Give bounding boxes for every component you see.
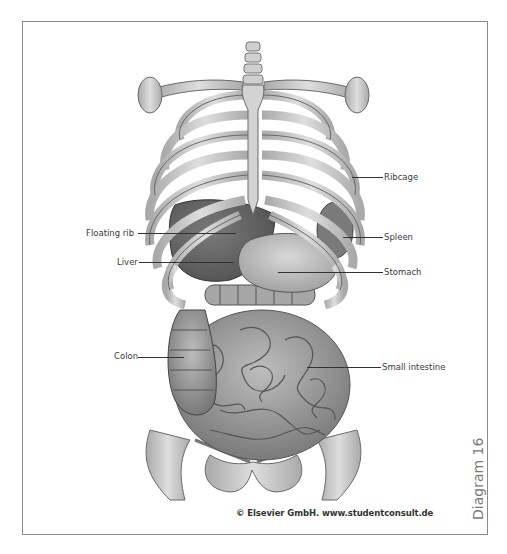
label-liver: Liver [117, 257, 138, 267]
label-colon: Colon [114, 351, 138, 361]
leader-colon [138, 357, 184, 358]
cervical-spine [243, 42, 263, 84]
torso-anatomy-illustration [0, 0, 507, 554]
leader-floating-rib [138, 233, 236, 234]
diagram-number: Diagram 16 [470, 438, 486, 520]
label-floating-rib: Floating rib [86, 228, 134, 238]
leader-spleen [343, 237, 383, 238]
sternum [242, 85, 264, 215]
label-spleen: Spleen [384, 232, 413, 242]
label-ribcage: Ribcage [384, 172, 418, 182]
copyright-notice: © Elsevier GmbH. www.studentconsult.de [236, 508, 433, 518]
leader-liver [139, 262, 234, 263]
label-small-intestine: Small intestine [382, 362, 445, 372]
colon [168, 310, 216, 415]
leader-small-intestine [307, 367, 381, 368]
label-stomach: Stomach [384, 267, 421, 277]
leader-stomach [278, 272, 383, 273]
leader-ribcage [352, 177, 383, 178]
